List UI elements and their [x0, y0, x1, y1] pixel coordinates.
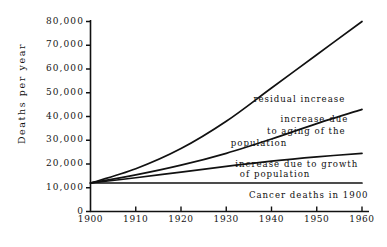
series-annotation: increase due	[281, 114, 349, 126]
series-annotation: to aging of the	[267, 126, 346, 138]
series-annotation: of population	[240, 169, 311, 181]
series-annotation: residual increase	[253, 94, 345, 106]
cancer-deaths-chart: Deaths per year 010,00020,00030,00040,00…	[0, 0, 387, 247]
series-annotation: population	[231, 138, 288, 150]
series-annotation: Cancer deaths in 1900	[249, 190, 369, 202]
